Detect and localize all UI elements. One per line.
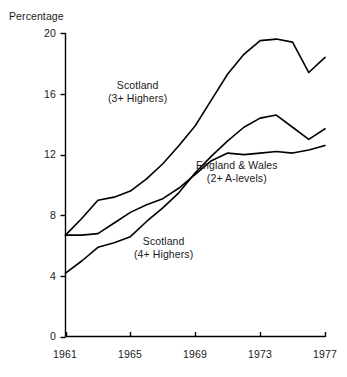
x-tick-label-1965: 1965 xyxy=(110,348,150,360)
series-annotation-england-wales: England & Wales (2+ A-levels) xyxy=(196,159,278,185)
x-tick-label-1961: 1961 xyxy=(45,348,85,360)
plot-canvas xyxy=(0,0,347,377)
annotation-text-line2: (4+ Highers) xyxy=(134,248,193,261)
annotation-text-line1: Scotland xyxy=(143,235,185,247)
y-tick-label-16: 16 xyxy=(34,88,56,100)
y-tick-label-0: 0 xyxy=(34,330,56,342)
annotation-text-line1: England & Wales xyxy=(196,159,278,171)
series-annotation-scotland-3-highers: Scotland (3+ Highers) xyxy=(108,79,167,105)
annotation-text-line2: (3+ Highers) xyxy=(108,92,167,105)
annotation-text-line2: (2+ A-levels) xyxy=(196,172,278,185)
y-axis-ticks xyxy=(61,34,66,338)
x-tick-label-1977: 1977 xyxy=(305,348,345,360)
line-chart-figure: Percentage 20 16 12 8 4 0 1961 1965 1969… xyxy=(0,0,347,377)
y-tick-label-4: 4 xyxy=(34,270,56,282)
y-tick-label-8: 8 xyxy=(34,209,56,221)
series-line-1 xyxy=(66,115,326,273)
y-tick-label-12: 12 xyxy=(34,148,56,160)
series-line-0 xyxy=(66,39,326,235)
axis-lines xyxy=(65,33,325,337)
data-series-lines xyxy=(66,39,326,273)
y-axis-title: Percentage xyxy=(9,10,64,22)
x-tick-label-1969: 1969 xyxy=(175,348,215,360)
x-tick-label-1973: 1973 xyxy=(240,348,280,360)
y-tick-label-20: 20 xyxy=(34,27,56,39)
annotation-text-line1: Scotland xyxy=(117,79,159,91)
series-annotation-scotland-4-highers: Scotland (4+ Highers) xyxy=(134,235,193,261)
